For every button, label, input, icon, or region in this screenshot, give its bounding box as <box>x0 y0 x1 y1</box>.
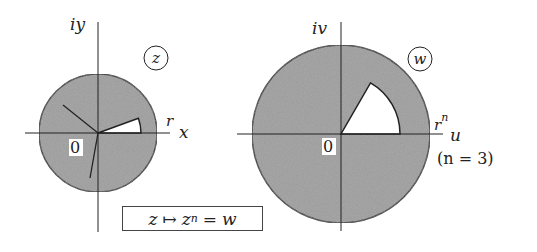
w-radius-exponent: n <box>441 111 448 124</box>
z-plane: 0 iy x r z <box>25 14 189 232</box>
w-plane-tag: w <box>414 50 427 68</box>
formula-exponent: n <box>191 212 198 225</box>
mapping-formula: z ↦ zn = w <box>122 206 263 231</box>
diagram-canvas: 0 iy x r z 0 iv u rn (n = 3) w <box>0 0 537 252</box>
w-exponent-note: (n = 3) <box>437 149 494 168</box>
formula-maps-to: ↦ <box>162 209 176 229</box>
w-radius-label: rn <box>434 111 448 134</box>
formula-rhs: w <box>222 209 237 229</box>
z-imag-axis-label: iy <box>70 14 85 34</box>
formula-base: z <box>182 209 191 229</box>
w-real-axis-label: u <box>450 125 461 145</box>
formula-equals: = <box>203 209 217 229</box>
z-radius-label: r <box>166 112 174 130</box>
formula-lhs: z <box>148 209 157 229</box>
w-plane: 0 iv u rn (n = 3) w <box>237 18 494 231</box>
z-origin-label: 0 <box>70 138 80 157</box>
w-imag-axis-label: iv <box>312 18 327 38</box>
w-origin-label: 0 <box>323 137 333 156</box>
z-plane-tag: z <box>151 49 160 67</box>
z-real-axis-label: x <box>179 122 189 142</box>
